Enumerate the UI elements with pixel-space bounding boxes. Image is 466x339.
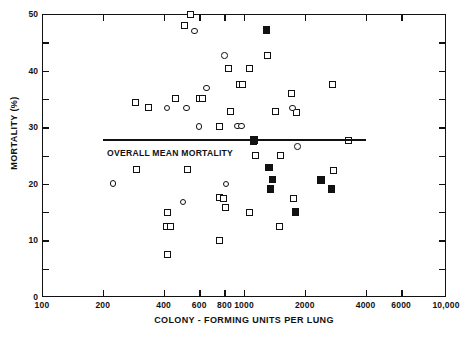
x-tick-top [164,14,165,21]
y-tick-left [42,156,49,157]
y-tick-left [42,71,49,72]
y-tick-right [439,99,446,100]
data-point-filled-square [269,176,277,184]
y-tick-left [42,99,49,100]
plot-area: OVERALL MEAN MORTALITY [42,14,446,297]
overall-mean-mortality-line [103,139,366,141]
data-point-open-circle [191,28,198,35]
data-point-open-circle [289,105,296,112]
data-point-open-square [220,195,227,202]
x-tick-label: 600 [192,300,207,310]
y-tick-label: 0 [16,292,38,302]
y-tick-right [439,127,446,128]
data-point-open-square [225,65,232,72]
data-point-open-square [252,152,259,159]
x-tick-bottom [305,290,306,297]
x-tick-label: 800 [217,300,232,310]
data-point-open-square [216,123,223,130]
x-tick-bottom [366,290,367,297]
data-point-open-square [330,167,337,174]
y-tick-label: 40 [16,66,38,76]
data-point-open-square [277,152,284,159]
data-point-open-square [132,99,139,106]
data-point-open-square [187,11,194,18]
mortality-vs-cfu-scatter-chart: OVERALL MEAN MORTALITY 10020040060080010… [0,0,466,339]
data-point-open-square [264,52,271,59]
data-point-open-circle [180,199,187,206]
data-point-open-circle [294,143,301,150]
x-tick-bottom [103,290,104,297]
y-tick-right [439,240,446,241]
data-point-open-circle [238,123,245,130]
y-tick-label: 30 [16,122,38,132]
x-tick-bottom [199,290,200,297]
x-tick-label: 400 [156,300,171,310]
data-point-open-circle [110,180,117,187]
y-tick-label: 50 [16,9,38,19]
data-point-open-square [276,223,283,230]
data-point-open-square [239,81,246,88]
data-point-filled-square [328,185,336,193]
x-tick-top [305,14,306,21]
data-point-open-square [246,65,253,72]
data-point-open-square [216,237,223,244]
y-tick-right [439,212,446,213]
data-point-open-circle [196,123,203,130]
y-tick-left [42,184,49,185]
data-point-open-square [246,209,253,216]
x-axis-title: COLONY - FORMING UNITS PER LUNG [42,315,446,325]
y-tick-left [42,212,49,213]
data-point-open-square [164,209,171,216]
y-tick-right [439,42,446,43]
data-point-open-square [181,22,188,29]
x-tick-top [199,14,200,21]
x-tick-label: 2000 [295,300,315,310]
x-tick-top [244,14,245,21]
y-tick-label: 20 [16,179,38,189]
y-tick-label: 10 [16,235,38,245]
data-point-open-square [167,223,174,230]
data-point-open-circle [221,52,228,59]
x-tick-label: 6000 [391,300,411,310]
x-tick-label: 10,000 [432,300,459,310]
x-tick-label: 4000 [356,300,376,310]
data-point-open-circle [223,181,230,188]
data-point-open-square [184,166,191,173]
data-point-open-circle [183,105,190,112]
y-tick-right [439,269,446,270]
data-point-filled-square [267,185,275,193]
x-tick-bottom [164,290,165,297]
x-tick-bottom [401,290,402,297]
y-axis-title: MORTALITY (%) [9,73,19,193]
data-point-open-square [329,81,336,88]
x-tick-bottom [244,290,245,297]
x-tick-bottom [224,290,225,297]
x-tick-top [401,14,402,21]
y-tick-left [42,42,49,43]
y-tick-right [439,71,446,72]
y-tick-left [42,127,49,128]
data-point-filled-square [265,164,273,172]
y-tick-left [42,269,49,270]
data-point-open-square [272,108,279,115]
data-point-open-square [222,204,229,211]
y-tick-right [439,184,446,185]
x-tick-top [224,14,225,21]
x-tick-top [366,14,367,21]
data-point-open-square [172,95,179,102]
data-point-filled-square [263,26,271,34]
data-point-open-square [145,104,152,111]
y-tick-left [42,240,49,241]
data-point-open-square [199,95,206,102]
y-tick-right [439,156,446,157]
x-tick-label: 200 [95,300,110,310]
data-point-filled-square [292,208,300,216]
data-point-open-circle [203,85,210,92]
data-point-open-square [290,195,297,202]
x-tick-top [103,14,104,21]
x-tick-label: 1000 [234,300,254,310]
overall-mean-mortality-label: OVERALL MEAN MORTALITY [107,148,233,158]
data-point-open-square [164,251,171,258]
data-point-open-circle [164,105,171,112]
data-point-open-square [227,108,234,115]
